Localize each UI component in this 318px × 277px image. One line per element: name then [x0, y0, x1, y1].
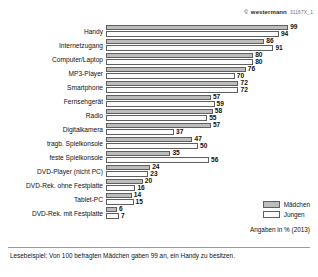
bar-track: 72 — [106, 81, 318, 87]
category-label: Smartphone — [0, 80, 103, 94]
bar-maedchen — [106, 95, 211, 101]
bar-track: 37 — [106, 129, 318, 135]
chart-row: DVD-Rek. ohne Festplatte2016 — [0, 178, 318, 192]
bar-jungen — [106, 59, 253, 65]
bar-jungen — [106, 143, 198, 149]
chart-row: Computer/Laptop8080 — [0, 52, 318, 66]
bar-track: 72 — [106, 87, 318, 93]
legend-item-jungen: Jungen — [263, 211, 310, 218]
copyright-credit: © westermann 31167X_1 — [244, 9, 313, 15]
bar-pair: 8691 — [106, 38, 318, 52]
footer-divider — [8, 247, 310, 248]
bar-maedchen — [106, 81, 238, 87]
bar-maedchen — [106, 123, 211, 129]
category-label: Computer/Laptop — [0, 52, 103, 66]
bar-jungen — [106, 199, 134, 205]
bar-value-label: 37 — [176, 128, 183, 136]
bar-maedchen — [106, 151, 170, 157]
chart-row: DVD-Player (nicht PC)2423 — [0, 164, 318, 178]
bar-maedchen — [106, 53, 253, 59]
bar-pair: 4750 — [106, 136, 318, 150]
bar-track: 80 — [106, 59, 318, 65]
category-label: Digitalkamera — [0, 122, 103, 136]
bar-track: 91 — [106, 45, 318, 51]
reading-example-footnote: Lesebeispiel: Von 100 befragten Mädchen … — [10, 252, 235, 259]
legend-swatch-maedchen — [263, 201, 280, 208]
bar-track: 23 — [106, 171, 318, 177]
chart-row: feste Spielkonsole3556 — [0, 150, 318, 164]
bar-maedchen — [106, 137, 192, 143]
chart-container: © westermann 31167X_1 Handy9994Internetz… — [0, 0, 318, 277]
bar-chart-plot-area: Handy9994Internetzugang8691Computer/Lapt… — [0, 24, 318, 220]
category-label: feste Spielkonsole — [0, 150, 103, 164]
bar-track: 47 — [106, 137, 318, 143]
bar-jungen — [106, 185, 135, 191]
units-note: Angaben in % (2013) — [250, 226, 310, 233]
bar-pair: 2016 — [106, 178, 318, 192]
bar-pair: 5737 — [106, 122, 318, 136]
bar-track: 80 — [106, 53, 318, 59]
bar-pair: 8080 — [106, 52, 318, 66]
chart-row: Radio5855 — [0, 108, 318, 122]
chart-row: Handy9994 — [0, 24, 318, 38]
category-label: MP3-Player — [0, 66, 103, 80]
bar-pair: 7272 — [106, 80, 318, 94]
chart-row: Digitalkamera5737 — [0, 122, 318, 136]
category-label: Internetzugang — [0, 38, 103, 52]
bar-track: 57 — [106, 123, 318, 129]
bar-pair: 7670 — [106, 66, 318, 80]
bar-track: 55 — [106, 115, 318, 121]
bar-track: 57 — [106, 95, 318, 101]
bar-pair: 2423 — [106, 164, 318, 178]
chart-row: Smartphone7272 — [0, 80, 318, 94]
chart-row: MP3-Player7670 — [0, 66, 318, 80]
legend-label-maedchen: Mädchen — [284, 201, 310, 208]
bar-maedchen — [106, 207, 117, 213]
bar-pair: 9994 — [106, 24, 318, 38]
category-label: Fernsehgerät — [0, 94, 103, 108]
bar-pair: 5855 — [106, 108, 318, 122]
bar-track: 16 — [106, 185, 318, 191]
bar-track: 50 — [106, 143, 318, 149]
bar-track: 70 — [106, 73, 318, 79]
bar-jungen — [106, 157, 209, 163]
bar-track: 94 — [106, 31, 318, 37]
chart-row: Fernsehgerät5759 — [0, 94, 318, 108]
bar-value-label: 15 — [136, 198, 143, 206]
bar-track: 24 — [106, 165, 318, 171]
bar-jungen — [106, 101, 215, 107]
category-label: DVD-Rek. ohne Festplatte — [0, 178, 103, 192]
bar-value-label: 94 — [281, 30, 288, 38]
bar-jungen — [106, 129, 174, 135]
publisher-name: westermann — [251, 9, 287, 15]
legend-swatch-jungen — [263, 211, 280, 218]
legend-label-jungen: Jungen — [284, 211, 305, 218]
category-label: Handy — [0, 24, 103, 38]
chart-row: Internetzugang8691 — [0, 38, 318, 52]
bar-maedchen — [106, 39, 264, 45]
legend-item-maedchen: Mädchen — [263, 201, 310, 208]
bar-jungen — [106, 73, 235, 79]
category-label: DVD-Player (nicht PC) — [0, 164, 103, 178]
category-label: tragb. Spielkonsole — [0, 136, 103, 150]
bar-jungen — [106, 171, 148, 177]
bar-maedchen — [106, 67, 246, 73]
bar-jungen — [106, 31, 279, 37]
chart-row: tragb. Spielkonsole4750 — [0, 136, 318, 150]
bar-value-label: 91 — [275, 44, 282, 52]
bar-track: 59 — [106, 101, 318, 107]
bar-value-label: 50 — [200, 142, 207, 150]
bar-track: 76 — [106, 67, 318, 73]
bar-pair: 5759 — [106, 94, 318, 108]
copyright-icon: © — [244, 9, 248, 15]
bar-track: 56 — [106, 157, 318, 163]
figure-code: 31167X_1 — [290, 10, 313, 15]
bar-maedchen — [106, 25, 288, 31]
bar-maedchen — [106, 165, 150, 171]
category-label: Tablet-PC — [0, 192, 103, 206]
bar-value-label: 72 — [240, 86, 247, 94]
bar-value-label: 80 — [255, 58, 262, 66]
bar-pair: 3556 — [106, 150, 318, 164]
category-label: Radio — [0, 108, 103, 122]
bar-maedchen — [106, 109, 213, 115]
